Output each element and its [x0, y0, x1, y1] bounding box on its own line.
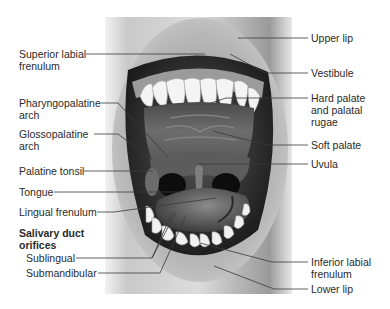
anatomy-diagram: Superior labial frenulum Pharyngopalatin…	[0, 0, 390, 309]
label-salivary-duct-orifices: Salivary duct orifices	[19, 227, 84, 251]
label-inferior-labial-frenulum: Inferior labial frenulum	[311, 256, 371, 280]
label-upper-lip: Upper lip	[311, 32, 353, 44]
label-palatine-tonsil: Palatine tonsil	[19, 165, 84, 177]
label-submandibular: Submandibular	[26, 267, 97, 279]
label-sublingual: Sublingual	[26, 252, 75, 264]
label-soft-palate: Soft palate	[311, 139, 361, 151]
label-lingual-frenulum: Lingual frenulum	[19, 206, 97, 218]
label-vestibule: Vestibule	[311, 67, 354, 79]
label-superior-labial-frenulum: Superior labial frenulum	[19, 48, 86, 72]
label-uvula: Uvula	[311, 158, 338, 170]
label-tongue: Tongue	[19, 186, 53, 198]
label-lower-lip: Lower lip	[311, 283, 353, 295]
label-hard-palate: Hard palate and palatal rugae	[311, 92, 365, 128]
label-pharyngopalatine-arch: Pharyngopalatine arch	[19, 97, 101, 121]
label-glossopalatine-arch: Glossopalatine arch	[19, 128, 88, 152]
